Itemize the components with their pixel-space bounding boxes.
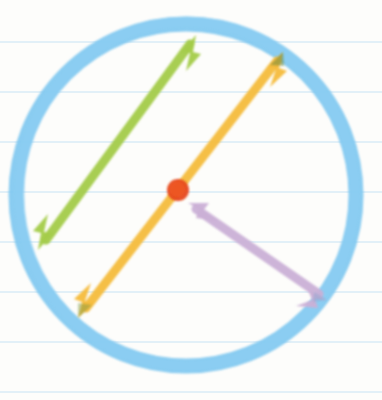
- circle-diagram-svg: [0, 0, 382, 400]
- diagram-canvas: [0, 0, 382, 400]
- center-dot: [167, 179, 189, 201]
- center-dot-highlight: [169, 181, 185, 197]
